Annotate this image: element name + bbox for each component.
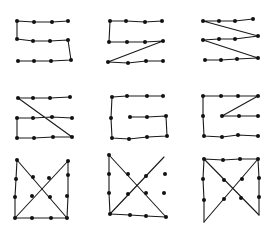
dot — [222, 197, 226, 201]
dot — [15, 158, 19, 162]
connecting-line — [111, 96, 167, 139]
dot — [240, 177, 244, 181]
dot — [233, 19, 237, 23]
panel-z-shape — [201, 17, 260, 62]
dot — [251, 17, 255, 21]
dot — [15, 19, 19, 23]
panel-s-shape-1 — [15, 19, 73, 63]
dot — [128, 213, 132, 217]
dot — [161, 39, 165, 43]
connecting-line — [203, 19, 258, 60]
dot — [70, 116, 74, 120]
dot — [221, 158, 225, 162]
dot — [128, 115, 132, 119]
dot — [126, 61, 130, 65]
dot — [201, 19, 205, 23]
dot — [126, 172, 130, 176]
dot — [161, 94, 165, 98]
dot — [144, 191, 148, 195]
dot — [127, 137, 131, 141]
dot — [69, 58, 73, 62]
dot — [15, 37, 19, 41]
dot — [237, 114, 241, 118]
dot — [107, 40, 111, 44]
dot — [144, 174, 148, 178]
dot — [257, 176, 261, 180]
dot — [163, 172, 167, 176]
dot — [143, 40, 147, 44]
dot — [256, 34, 260, 38]
dot — [48, 39, 52, 43]
nine-dot-pattern-sheet — [0, 0, 277, 247]
dot — [201, 94, 205, 98]
dot — [202, 134, 206, 138]
dot — [165, 134, 169, 138]
dot — [238, 157, 242, 161]
dot — [31, 96, 35, 100]
dot — [66, 38, 70, 42]
dot — [143, 20, 147, 24]
dot — [16, 59, 20, 63]
dot — [161, 59, 165, 63]
dot — [48, 96, 52, 100]
dot — [70, 135, 74, 139]
dot — [15, 116, 19, 120]
dot — [31, 175, 35, 179]
dot — [31, 39, 35, 43]
dot — [256, 157, 260, 161]
dot — [50, 20, 54, 24]
dot — [164, 114, 168, 118]
dot — [107, 153, 111, 157]
dot — [144, 214, 148, 218]
panel-bowtie-3 — [201, 157, 261, 222]
dot — [233, 37, 237, 41]
dot — [51, 135, 55, 139]
connecting-line — [204, 159, 258, 222]
panel-bowtie-1 — [13, 158, 70, 220]
dot — [219, 94, 223, 98]
dot — [217, 37, 221, 41]
dot — [66, 19, 70, 23]
dot — [201, 114, 205, 118]
dot — [48, 195, 52, 199]
dot — [31, 116, 35, 120]
dot — [145, 135, 149, 139]
dot — [110, 95, 114, 99]
dot — [13, 195, 17, 199]
dot — [15, 136, 19, 140]
connecting-line — [17, 160, 67, 218]
dot — [144, 59, 148, 63]
dot — [160, 19, 164, 23]
dot — [236, 94, 240, 98]
dot — [49, 59, 53, 63]
dot — [126, 192, 130, 196]
dot — [108, 19, 112, 23]
dot — [256, 56, 260, 60]
dot — [257, 195, 261, 199]
dot — [16, 96, 20, 100]
connecting-line — [203, 96, 258, 137]
dot — [108, 212, 112, 216]
dot — [66, 159, 70, 163]
connecting-line — [17, 21, 71, 61]
dot — [125, 94, 129, 98]
dot — [107, 191, 111, 195]
panel-spiral-diagonal — [201, 94, 260, 139]
panel-bowtie-2 — [107, 153, 168, 219]
dot — [32, 136, 36, 140]
dot — [220, 135, 224, 139]
connecting-line — [15, 160, 17, 218]
dot — [203, 58, 207, 62]
dot — [145, 115, 149, 119]
panel-s-shape-2 — [106, 19, 165, 65]
dot — [30, 216, 34, 220]
connecting-line — [108, 21, 163, 63]
dot — [239, 196, 243, 200]
connecting-line — [17, 97, 72, 138]
dot — [219, 58, 223, 62]
dot — [30, 194, 34, 198]
dot — [50, 115, 54, 119]
dot — [202, 198, 206, 202]
dot — [256, 94, 260, 98]
dot — [202, 157, 206, 161]
